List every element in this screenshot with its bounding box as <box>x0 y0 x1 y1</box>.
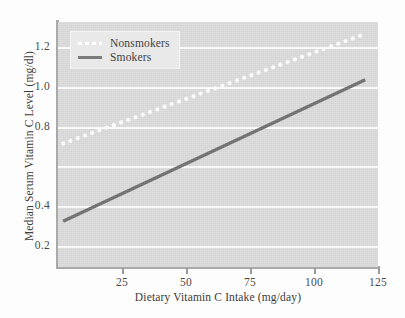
x-tick-mark <box>314 268 316 274</box>
chart-figure: Median Serum Vitamin C Level (mg/dl) 0.2… <box>0 0 405 318</box>
legend-item-nonsmokers: Nonsmokers <box>77 36 170 50</box>
legend-label-nonsmokers: Nonsmokers <box>110 37 170 49</box>
x-tick-mark <box>186 268 188 274</box>
series-line-smokers <box>63 80 365 221</box>
x-tick-mark <box>122 268 124 274</box>
x-axis-title: Dietary Vitamin C Intake (mg/day) <box>58 291 378 303</box>
x-tick-label: 100 <box>297 276 331 288</box>
x-tick-label: 25 <box>105 276 139 288</box>
dotted-line-swatch-icon <box>77 38 103 49</box>
x-tick-label: 75 <box>233 276 267 288</box>
x-tick-label: 50 <box>169 276 203 288</box>
legend-label-smokers: Smokers <box>110 51 151 63</box>
solid-line-swatch-icon <box>77 52 103 63</box>
y-tick-label: 0.2 <box>20 239 50 251</box>
y-axis-title: Median Serum Vitamin C Level (mg/dl) <box>23 21 35 271</box>
chart-legend: Nonsmokers Smokers <box>70 31 180 69</box>
x-tick-label: 125 <box>361 276 395 288</box>
y-tick-label: 1.0 <box>20 80 50 92</box>
y-tick-label: 1.2 <box>20 40 50 52</box>
y-tick-label: 0.8 <box>20 120 50 132</box>
legend-item-smokers: Smokers <box>77 50 170 64</box>
y-tick-label: 0.4 <box>20 199 50 211</box>
x-tick-mark <box>378 268 380 274</box>
x-tick-mark <box>250 268 252 274</box>
